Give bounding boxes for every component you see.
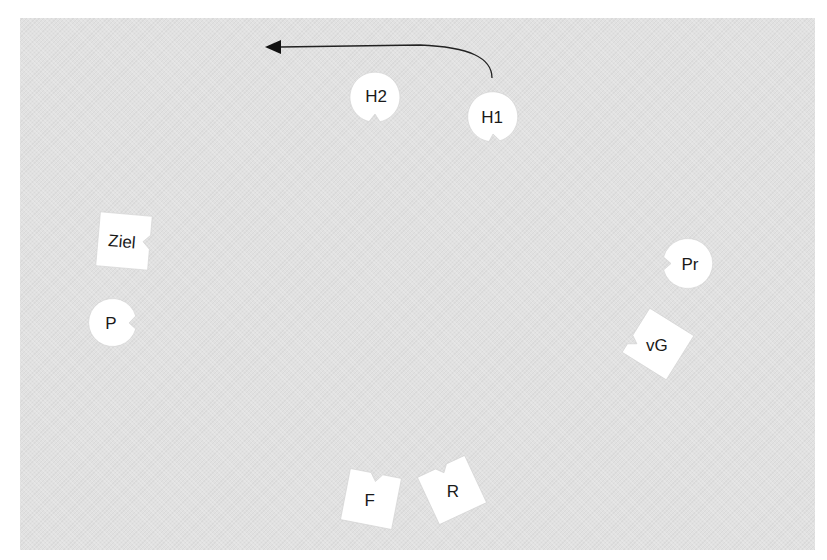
- diagram-canvas: H2 H1 Ziel P Pr vG F R: [0, 0, 827, 560]
- arrow-line: [280, 45, 492, 78]
- node-ziel[interactable]: Ziel: [96, 212, 153, 270]
- node-label: R: [447, 482, 459, 501]
- node-h2[interactable]: H2: [350, 72, 400, 121]
- node-vg[interactable]: vG: [622, 308, 694, 380]
- node-label: Pr: [682, 255, 699, 274]
- node-f[interactable]: F: [341, 469, 402, 530]
- node-p[interactable]: P: [89, 299, 136, 347]
- node-pr[interactable]: Pr: [664, 239, 713, 289]
- node-label: H2: [365, 87, 387, 106]
- node-label: vG: [646, 336, 668, 355]
- node-label: H1: [481, 108, 503, 127]
- node-label: P: [105, 314, 116, 333]
- node-label: F: [364, 491, 374, 510]
- node-h1[interactable]: H1: [468, 92, 518, 142]
- node-r[interactable]: R: [417, 455, 486, 524]
- arrow-head-icon: [265, 40, 281, 54]
- node-label: Ziel: [107, 231, 136, 252]
